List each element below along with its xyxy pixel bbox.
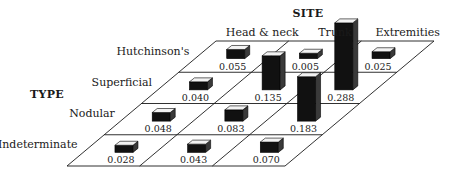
- value-label: 0.028: [107, 154, 134, 165]
- bar: [260, 138, 283, 152]
- chart-labels: SITE TYPE Head & neckTrunkExtremitiesHut…: [0, 7, 440, 165]
- row-label: Superficial: [92, 76, 153, 89]
- col-axis-title: SITE: [293, 7, 324, 20]
- value-label: 0.135: [255, 92, 282, 103]
- value-label: 0.048: [145, 123, 172, 134]
- value-label: 0.025: [364, 61, 391, 72]
- row-axis-title: TYPE: [30, 88, 64, 101]
- col-label: Head & neck: [226, 26, 299, 39]
- bar: [262, 52, 285, 90]
- value-label: 0.043: [180, 154, 207, 165]
- row-label: Indeterminate: [0, 138, 78, 151]
- row-label: Nodular: [69, 107, 115, 120]
- value-label: 0.005: [292, 61, 319, 72]
- bar: [372, 48, 395, 59]
- bar: [189, 78, 212, 90]
- value-label: 0.040: [182, 92, 209, 103]
- bar: [299, 49, 322, 58]
- value-label: 0.083: [217, 123, 244, 134]
- bar: [225, 106, 248, 121]
- row-label: Hutchinson's: [116, 45, 189, 58]
- bar: [298, 73, 321, 121]
- bar: [115, 141, 138, 152]
- col-label: Extremities: [375, 26, 440, 39]
- chart-3d-grid-bar: SITE TYPE Head & neckTrunkExtremitiesHut…: [0, 0, 452, 180]
- bar: [227, 45, 250, 58]
- value-label: 0.070: [253, 154, 280, 165]
- value-label: 0.288: [327, 92, 354, 103]
- value-label: 0.055: [219, 61, 246, 72]
- col-label: Trunk: [318, 26, 352, 39]
- bar: [152, 109, 175, 122]
- value-label: 0.183: [290, 123, 317, 134]
- bar: [188, 140, 211, 152]
